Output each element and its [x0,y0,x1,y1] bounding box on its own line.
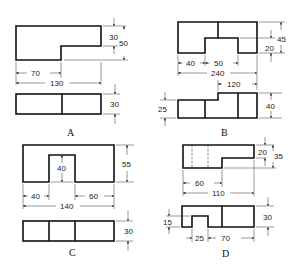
dim-c-overall-height: 55 [122,160,131,169]
dim-d-right-width: 70 [221,234,230,243]
figure-d: 20 35 60 110 30 [163,137,283,259]
dim-c-overall-width: 140 [60,202,74,211]
dim-a-step-height: 30 [109,33,118,42]
figure-d-top-view: 20 35 60 110 [183,137,283,198]
figure-a: 30 50 70 130 30 A [16,18,128,138]
figure-d-label: D [222,248,229,259]
dim-b-total-height: 45 [277,35,286,44]
dim-b-left-offset: 40 [186,59,195,68]
dim-d-step-height: 20 [258,148,267,157]
dim-c-front-height: 30 [124,227,133,236]
figure-a-top-view: 30 50 70 130 [16,18,128,88]
dim-a-front-height: 30 [110,100,119,109]
dim-c-left-offset: 40 [31,192,40,201]
figure-a-label: A [67,127,75,138]
figure-d-front-view: 30 15 25 70 [163,197,274,243]
orthographic-drawings: 30 50 70 130 30 A [0,0,301,271]
dim-b-right-width: 120 [227,80,241,89]
dim-b-overall-height: 40 [266,102,275,111]
dim-d-notch-width: 25 [195,234,204,243]
dim-d-front-height: 30 [263,213,272,222]
figure-a-front-view: 30 [16,84,120,124]
dim-a-overall-width: 130 [50,79,64,88]
dim-a-notch-width: 70 [31,69,40,78]
figure-c-label: C [69,247,76,258]
dim-a-overall-height: 50 [119,39,128,48]
figure-b: 45 20 40 50 240 120 [158,22,286,138]
dim-d-overall-height: 35 [274,152,283,161]
figure-c: 40 55 40 60 140 30 C [23,145,134,258]
figure-c-top-view: 40 55 40 60 140 [23,145,134,211]
figure-c-front-view: 30 [23,210,133,251]
dim-b-left-height: 25 [158,105,167,114]
dim-d-notch-height: 15 [163,218,172,227]
dim-b-notch-depth: 20 [265,44,274,53]
figure-b-label: B [221,127,228,138]
dim-b-notch-width: 50 [214,59,223,68]
dim-d-overall-width: 110 [212,189,225,198]
dim-b-overall-width: 240 [211,69,225,78]
dim-d-left-width: 60 [195,179,204,188]
figure-b-front-view: 120 25 40 [158,80,282,126]
dim-c-right-offset: 60 [89,192,98,201]
dim-c-notch-depth: 40 [57,164,66,173]
